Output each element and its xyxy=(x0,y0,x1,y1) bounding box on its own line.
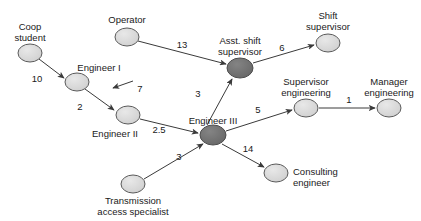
edge-weight-operator-to-asst: 13 xyxy=(177,39,188,50)
node-engineer-i[interactable] xyxy=(65,73,89,91)
edge-eng3-to-eng1 xyxy=(113,81,133,88)
edge-eng1-to-eng2 xyxy=(85,89,114,110)
edge-weight-eng3-to-eng1: 7 xyxy=(137,83,142,94)
node-label-manager-engineering: Manager engineering xyxy=(364,76,414,98)
node-manager-engineering[interactable] xyxy=(377,99,401,117)
diagram-graph xyxy=(0,0,421,221)
node-supervisor-engineering[interactable] xyxy=(294,99,318,117)
node-label-engineer-i: Engineer I xyxy=(77,62,120,73)
node-label-asst-shift-supervisor: Asst. shift supervisor xyxy=(218,35,262,57)
edge-weight-eng3-to-asst: 3 xyxy=(195,88,200,99)
edge-weight-eng1-to-eng2: 2 xyxy=(77,101,82,112)
node-operator[interactable] xyxy=(115,28,139,46)
node-coop-student[interactable] xyxy=(18,44,42,62)
diagram-canvas: Coop student Operator Engineer I Enginee… xyxy=(0,0,421,221)
edge-coop-to-eng1 xyxy=(39,59,64,78)
node-shift-supervisor[interactable] xyxy=(316,34,340,52)
node-asst-shift-supervisor[interactable] xyxy=(227,58,253,78)
node-consulting-engineer[interactable] xyxy=(264,164,288,182)
edge-weight-asst-to-shift: 6 xyxy=(279,42,284,53)
edge-weight-eng3-to-supeng: 5 xyxy=(255,104,260,115)
edge-weight-supeng-to-mgreng: 1 xyxy=(346,94,351,105)
node-label-consulting-engineer: Consulting engineer xyxy=(293,166,338,188)
nodes-layer xyxy=(18,28,401,193)
node-label-engineer-iii: Engineer III xyxy=(189,115,238,126)
node-label-operator: Operator xyxy=(108,14,146,25)
node-label-supervisor-engineering: Supervisor engineering xyxy=(281,76,331,98)
node-transmission-access-specialist[interactable] xyxy=(121,175,145,193)
node-engineer-iii[interactable] xyxy=(200,125,226,145)
edge-weight-coop-to-eng1: 10 xyxy=(32,73,43,84)
edge-weight-eng2-to-eng3: 2.5 xyxy=(152,124,165,135)
node-label-shift-supervisor: Shift supervisor xyxy=(306,10,350,32)
edge-weight-tas-to-eng3: 3 xyxy=(176,151,181,162)
node-label-coop-student: Coop student xyxy=(14,21,45,43)
node-label-transmission-access-specialist: Transmission access specialist xyxy=(97,195,168,217)
edge-tas-to-eng3 xyxy=(144,144,203,179)
node-engineer-ii[interactable] xyxy=(116,106,140,124)
node-label-engineer-ii: Engineer II xyxy=(92,128,138,139)
edge-weight-eng3-to-consulting: 14 xyxy=(243,143,254,154)
